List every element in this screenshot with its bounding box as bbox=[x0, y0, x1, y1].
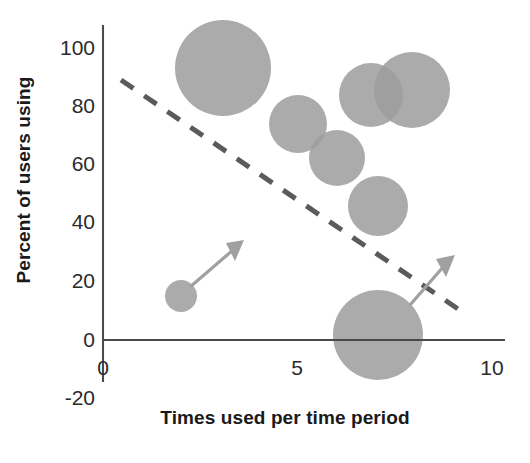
y-tick-0: 0 bbox=[83, 328, 95, 351]
growth-arrow-bottom-bubble bbox=[410, 255, 455, 305]
bubble-large-top-left bbox=[175, 20, 271, 116]
x-tick-labels: 0 5 10 bbox=[97, 356, 504, 379]
y-axis-title: Percent of users using bbox=[13, 76, 34, 283]
y-tick-20: 20 bbox=[72, 269, 95, 292]
y-tick-labels: 100 80 60 40 20 0 -20 bbox=[60, 36, 95, 409]
arrow-head-icon bbox=[226, 240, 244, 261]
bubble-series bbox=[165, 20, 450, 380]
x-tick-5: 5 bbox=[291, 356, 303, 379]
bubble-right-outer bbox=[374, 52, 450, 128]
chart-canvas: 100 80 60 40 20 0 -20 0 5 10 Times used … bbox=[0, 0, 530, 463]
y-tick-100: 100 bbox=[60, 36, 95, 59]
bubble-chart: 100 80 60 40 20 0 -20 0 5 10 Times used … bbox=[0, 0, 530, 463]
x-axis-title: Times used per time period bbox=[160, 407, 409, 428]
y-tick-minus20: -20 bbox=[65, 386, 95, 409]
x-tick-0: 0 bbox=[97, 356, 109, 379]
y-tick-80: 80 bbox=[72, 94, 95, 117]
x-tick-10: 10 bbox=[480, 356, 503, 379]
bubble-mid-lower bbox=[348, 176, 408, 236]
arrow-shaft bbox=[410, 266, 444, 305]
y-tick-60: 60 bbox=[72, 152, 95, 175]
arrow-shaft bbox=[190, 250, 233, 287]
growth-arrow-small-bubble bbox=[190, 240, 244, 287]
bubble-mid-center bbox=[309, 130, 365, 186]
y-tick-40: 40 bbox=[72, 210, 95, 233]
